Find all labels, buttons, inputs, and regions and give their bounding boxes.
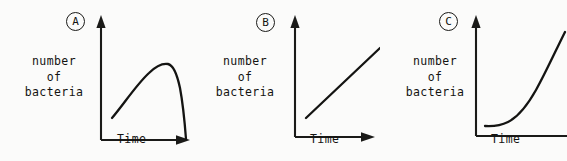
- bacterial-growth-figure: number of bacteria Time A number of bact…: [0, 0, 567, 161]
- linear-growth-line: [306, 48, 380, 118]
- y-axis-label-b: number of bacteria: [203, 54, 287, 101]
- panel-badge-b: B: [256, 13, 275, 32]
- y-axis-label-c: number of bacteria: [393, 54, 477, 101]
- panel-badge-c: C: [439, 12, 458, 31]
- y-axis-arrow-c: [471, 15, 480, 28]
- x-axis-arrow-b: [361, 132, 375, 142]
- growth-panel-a: number of bacteria Time A: [0, 0, 195, 161]
- y-axis-arrow-a: [96, 15, 105, 28]
- growth-panel-c: number of bacteria Time C: [375, 0, 567, 161]
- x-axis-label-a: Time: [117, 132, 146, 146]
- y-axis-label-a: number of bacteria: [12, 54, 96, 101]
- panel-badge-a: A: [66, 12, 85, 31]
- rise-peak-crash-curve: [112, 64, 186, 139]
- exponential-growth-curve: [485, 32, 565, 126]
- growth-panel-b: number of bacteria Time B: [190, 0, 380, 161]
- y-axis-arrow-b: [290, 15, 299, 28]
- x-axis-arrow-a: [176, 135, 190, 145]
- x-axis-label-c: Time: [491, 132, 520, 146]
- x-axis-label-b: Time: [310, 132, 339, 146]
